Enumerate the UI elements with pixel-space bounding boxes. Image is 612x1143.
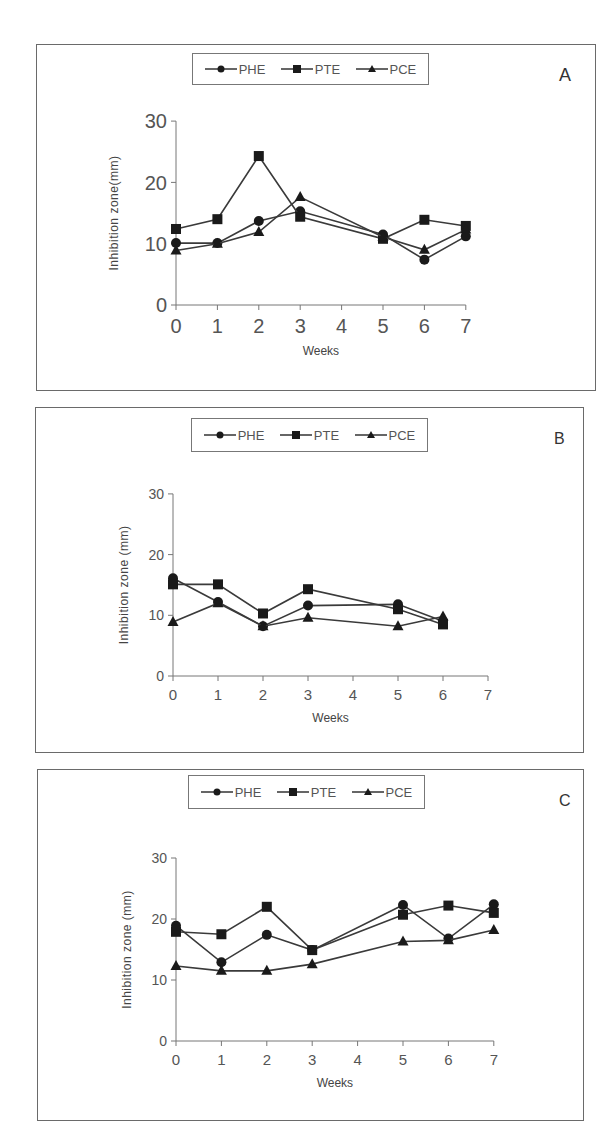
x-tick-label: 0 — [169, 686, 177, 703]
x-axis-label: Weeks — [317, 1076, 353, 1090]
y-tick-label: 0 — [156, 294, 167, 316]
triangle-marker — [171, 960, 182, 970]
chart-panel-a: PHE PTE PCE A 010203001234567WeeksInhibi… — [36, 44, 596, 391]
x-tick-label: 7 — [484, 686, 492, 703]
y-tick-label: 10 — [145, 233, 167, 255]
y-tick-label: 30 — [148, 486, 164, 502]
x-tick-label: 4 — [336, 315, 347, 337]
y-tick-label: 20 — [148, 547, 164, 563]
cropped-caption — [300, 1132, 600, 1138]
x-tick-label: 1 — [214, 686, 222, 703]
square-marker — [393, 604, 403, 614]
square-marker — [398, 910, 408, 920]
square-marker — [254, 151, 264, 161]
x-tick-label: 3 — [308, 1051, 316, 1068]
y-axis-label: Inhibition zone (mm) — [117, 526, 131, 645]
triangle-marker — [295, 191, 306, 201]
square-marker — [419, 215, 429, 225]
y-tick-label: 0 — [159, 1033, 167, 1049]
x-tick-label: 1 — [212, 315, 223, 337]
triangle-marker — [398, 936, 409, 946]
y-tick-label: 20 — [145, 172, 167, 194]
y-tick-label: 30 — [145, 110, 167, 132]
circle-marker — [419, 255, 429, 265]
triangle-marker — [438, 611, 449, 621]
chart-panel-b: PHE PTE PCE B 010203001234567WeeksInhibi… — [35, 407, 584, 753]
square-marker — [168, 579, 178, 589]
x-tick-label: 7 — [460, 315, 471, 337]
square-marker — [258, 608, 268, 618]
square-marker — [443, 901, 453, 911]
line-chart: 010203001234567WeeksInhibition zone (mm) — [38, 770, 585, 1122]
square-marker — [307, 945, 317, 955]
square-marker — [489, 908, 499, 918]
y-tick-label: 10 — [148, 607, 164, 623]
series-line-pte — [176, 156, 466, 239]
x-axis-label: Weeks — [303, 344, 339, 358]
x-tick-label: 2 — [263, 1051, 271, 1068]
x-tick-label: 4 — [353, 1051, 361, 1068]
y-tick-label: 30 — [151, 850, 167, 866]
x-tick-label: 5 — [399, 1051, 407, 1068]
triangle-marker — [488, 924, 499, 934]
y-axis-label: Inhibition zone(mm) — [107, 156, 121, 271]
square-marker — [262, 902, 272, 912]
square-marker — [171, 927, 181, 937]
x-axis-label: Weeks — [312, 711, 348, 725]
circle-marker — [254, 216, 264, 226]
triangle-marker — [253, 226, 264, 236]
x-tick-label: 7 — [490, 1051, 498, 1068]
x-tick-label: 4 — [349, 686, 357, 703]
x-tick-label: 0 — [172, 1051, 180, 1068]
circle-marker — [489, 899, 499, 909]
line-chart: 010203001234567WeeksInhibition zone(mm) — [37, 45, 597, 392]
square-marker — [212, 214, 222, 224]
square-marker — [213, 579, 223, 589]
square-marker — [303, 584, 313, 594]
x-tick-label: 3 — [295, 315, 306, 337]
x-tick-label: 5 — [394, 686, 402, 703]
circle-marker — [398, 900, 408, 910]
square-marker — [438, 619, 448, 629]
x-tick-label: 2 — [253, 315, 264, 337]
square-marker — [216, 929, 226, 939]
line-chart: 010203001234567WeeksInhibition zone (mm) — [36, 408, 585, 754]
y-tick-label: 0 — [156, 668, 164, 684]
x-tick-label: 6 — [439, 686, 447, 703]
y-axis-label: Inhibition zone (mm) — [120, 890, 134, 1009]
square-marker — [171, 224, 181, 234]
square-marker — [295, 212, 305, 222]
x-tick-label: 3 — [304, 686, 312, 703]
y-tick-label: 20 — [151, 911, 167, 927]
chart-panel-c: PHE PTE PCE C 010203001234567WeeksInhibi… — [37, 769, 584, 1121]
triangle-marker — [303, 612, 314, 622]
x-tick-label: 2 — [259, 686, 267, 703]
x-tick-label: 0 — [170, 315, 181, 337]
y-tick-label: 10 — [151, 972, 167, 988]
x-tick-label: 1 — [217, 1051, 225, 1068]
x-tick-label: 6 — [419, 315, 430, 337]
circle-marker — [262, 930, 272, 940]
circle-marker — [303, 601, 313, 611]
x-tick-label: 6 — [444, 1051, 452, 1068]
x-tick-label: 5 — [377, 315, 388, 337]
